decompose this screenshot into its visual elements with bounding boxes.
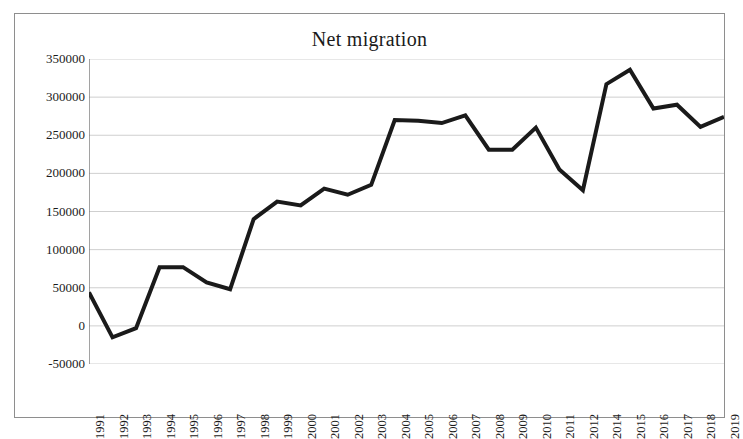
- series-line: [89, 70, 724, 338]
- x-tick-label: 2006: [446, 414, 461, 439]
- x-tick-label: 2007: [469, 414, 484, 439]
- x-tick-label: 2008: [493, 414, 508, 439]
- data-series-net-migration: [89, 70, 724, 338]
- x-tick-label: 1999: [281, 414, 296, 439]
- y-axis-tick-labels: 3500003000002500002000001500001000005000…: [15, 59, 85, 364]
- x-tick-label: 2015: [634, 414, 649, 439]
- plot-area: [89, 59, 724, 364]
- x-tick-label: 2011: [563, 414, 578, 439]
- x-tick-label: 2018: [704, 414, 719, 439]
- y-tick-label: 250000: [46, 127, 85, 143]
- chart-frame: Net migration 35000030000025000020000015…: [14, 13, 725, 418]
- x-tick-label: 1994: [164, 414, 179, 439]
- y-tick-label: 0: [79, 318, 86, 334]
- x-tick-label: 2019: [728, 414, 743, 439]
- x-tick-label: 1995: [187, 414, 202, 439]
- x-tick-label: 2014: [610, 414, 625, 439]
- x-tick-label: 2001: [328, 414, 343, 439]
- y-tick-label: 350000: [46, 51, 85, 67]
- x-tick-label: 2002: [352, 414, 367, 439]
- x-axis-tick-labels: 1991199219931994199519961997199819992000…: [89, 366, 724, 418]
- x-tick-label: 2009: [516, 414, 531, 439]
- x-tick-label: 2000: [305, 414, 320, 439]
- x-tick-label: 2012: [587, 414, 602, 439]
- x-tick-label: 2004: [399, 414, 414, 439]
- x-tick-label: 1996: [211, 414, 226, 439]
- x-tick-label: 1997: [234, 414, 249, 439]
- y-tick-label: 200000: [46, 165, 85, 181]
- y-tick-label: 300000: [46, 89, 85, 105]
- x-tick-label: 2017: [681, 414, 696, 439]
- gridlines: [89, 59, 724, 364]
- x-tick-label: 1998: [258, 414, 273, 439]
- x-tick-label: 2010: [540, 414, 555, 439]
- x-tick-label: 1992: [117, 414, 132, 439]
- x-tick-label: 1991: [93, 414, 108, 439]
- line-chart-svg: [89, 59, 724, 364]
- x-tick-label: 2005: [422, 414, 437, 439]
- y-tick-label: -50000: [48, 356, 85, 372]
- y-tick-label: 150000: [46, 204, 85, 220]
- x-tick-label: 1993: [140, 414, 155, 439]
- y-tick-label: 50000: [53, 280, 86, 296]
- y-tick-label: 100000: [46, 242, 85, 258]
- x-tick-label: 2016: [657, 414, 672, 439]
- chart-title: Net migration: [15, 28, 724, 51]
- x-tick-label: 2003: [375, 414, 390, 439]
